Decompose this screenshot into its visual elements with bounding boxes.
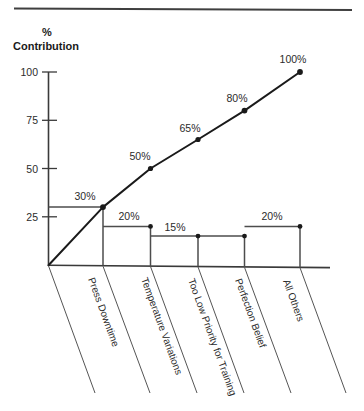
- point-50: [148, 166, 153, 171]
- bar-label-too-low-priority: 15%: [164, 221, 185, 233]
- point-30: [100, 204, 106, 210]
- y-tick-label-25: 25: [26, 211, 38, 223]
- bar-marker-too-low-priority: [196, 234, 201, 239]
- point-label-50: 50%: [129, 150, 150, 162]
- bar-marker-all-others: [298, 224, 303, 229]
- point-label-100: 100%: [280, 53, 307, 65]
- y-tick-label-50: 50: [26, 163, 38, 175]
- chart-canvas: % Contribution 100 75 50 25: [0, 0, 364, 411]
- point-label-65: 65%: [179, 122, 200, 134]
- bar-label-all-others: 20%: [261, 210, 282, 222]
- chart-background: [0, 0, 364, 411]
- point-80: [242, 108, 248, 114]
- y-axis-title-percent: %: [42, 26, 52, 38]
- y-axis-title-contribution: Contribution: [13, 40, 79, 52]
- bar-marker-perfection-belief: [242, 234, 247, 239]
- pareto-chart: % Contribution 100 75 50 25: [0, 0, 364, 411]
- point-label-80: 80%: [226, 92, 247, 104]
- point-100: [297, 69, 303, 75]
- y-tick-label-75: 75: [26, 114, 38, 126]
- bar-label-temperature-variations: 20%: [118, 210, 139, 222]
- point-65: [195, 137, 200, 142]
- top-divider-rule: [14, 9, 352, 11]
- point-label-30: 30%: [74, 190, 95, 202]
- bar-marker-temperature-variations: [148, 224, 153, 229]
- y-tick-label-100: 100: [20, 66, 38, 78]
